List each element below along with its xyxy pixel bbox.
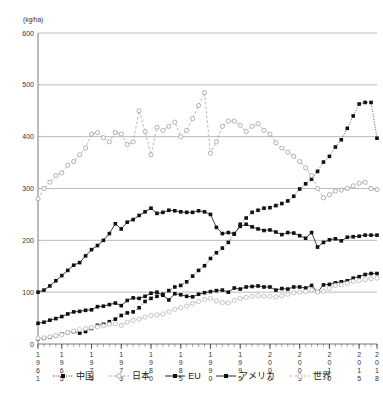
data-point bbox=[202, 297, 206, 301]
data-point bbox=[155, 290, 159, 294]
data-point bbox=[72, 263, 76, 267]
legend-item-1[interactable]: 日本 bbox=[108, 371, 150, 381]
data-point bbox=[48, 284, 52, 288]
data-point bbox=[125, 142, 129, 146]
data-point bbox=[363, 273, 367, 277]
data-point bbox=[173, 209, 177, 213]
data-point bbox=[42, 186, 46, 190]
x-tick-label-digit: 2 bbox=[327, 351, 331, 358]
data-point bbox=[131, 318, 135, 322]
data-point bbox=[274, 230, 278, 234]
data-point bbox=[286, 287, 290, 291]
chart-legend: 中国日本EUアメリカ世界 bbox=[0, 371, 383, 381]
data-point bbox=[66, 269, 70, 273]
legend-item-3[interactable]: アメリカ bbox=[215, 371, 275, 381]
data-point bbox=[114, 301, 118, 305]
data-point bbox=[185, 211, 189, 215]
data-point bbox=[113, 322, 117, 326]
data-point bbox=[108, 303, 112, 307]
data-point bbox=[244, 216, 248, 220]
data-point bbox=[66, 331, 70, 335]
data-point bbox=[83, 146, 87, 150]
data-point bbox=[203, 210, 207, 214]
data-point bbox=[143, 300, 147, 304]
data-point bbox=[96, 305, 100, 309]
data-point bbox=[351, 184, 355, 188]
data-point bbox=[262, 285, 266, 289]
data-point bbox=[90, 248, 94, 252]
y-tick-label: 500 bbox=[22, 81, 34, 88]
data-point bbox=[256, 227, 260, 231]
x-tick-label-digit: 0 bbox=[327, 359, 331, 366]
data-point bbox=[167, 298, 171, 302]
data-point bbox=[60, 315, 64, 319]
data-point bbox=[173, 307, 177, 311]
x-tick-label-digit: 1 bbox=[238, 351, 242, 358]
data-point bbox=[220, 124, 224, 128]
data-point bbox=[309, 288, 313, 292]
data-point bbox=[339, 188, 343, 192]
data-point bbox=[107, 322, 111, 326]
data-point bbox=[36, 336, 40, 340]
data-point bbox=[334, 237, 338, 241]
data-point bbox=[238, 296, 242, 300]
data-point bbox=[280, 202, 284, 206]
data-point bbox=[286, 292, 290, 296]
data-point bbox=[274, 295, 278, 299]
data-point bbox=[328, 283, 332, 287]
data-point bbox=[369, 277, 373, 281]
data-point bbox=[280, 287, 284, 291]
y-tick-label: 0 bbox=[30, 341, 34, 348]
data-point bbox=[131, 140, 135, 144]
data-point bbox=[345, 235, 349, 239]
data-point bbox=[232, 298, 236, 302]
data-point bbox=[119, 132, 123, 136]
data-point bbox=[89, 325, 93, 329]
data-point bbox=[322, 160, 326, 164]
data-point bbox=[84, 309, 88, 313]
x-tick-label-digit: 9 bbox=[36, 359, 40, 366]
data-point bbox=[149, 153, 153, 157]
legend-item-4[interactable]: 世界 bbox=[289, 371, 331, 381]
data-point bbox=[369, 101, 373, 105]
data-point bbox=[66, 163, 70, 167]
data-point bbox=[286, 150, 290, 154]
data-point bbox=[268, 206, 272, 210]
data-point bbox=[42, 288, 46, 292]
data-point bbox=[197, 269, 201, 273]
data-point bbox=[149, 297, 153, 301]
series-japan bbox=[36, 91, 379, 201]
data-point bbox=[292, 291, 296, 295]
x-tick-label-digit: 2 bbox=[375, 351, 379, 358]
legend-label: 日本 bbox=[132, 371, 150, 381]
data-point bbox=[221, 246, 225, 250]
data-point bbox=[363, 101, 367, 105]
legend-item-2[interactable]: EU bbox=[164, 371, 201, 381]
data-point bbox=[315, 186, 319, 190]
data-point bbox=[215, 251, 219, 255]
data-point bbox=[137, 317, 141, 321]
data-point bbox=[280, 294, 284, 298]
data-point bbox=[60, 333, 64, 337]
x-tick-label-digit: 9 bbox=[60, 359, 64, 366]
data-point bbox=[173, 120, 177, 124]
legend-item-0[interactable]: 中国 bbox=[52, 371, 94, 381]
data-point bbox=[143, 315, 147, 319]
data-point bbox=[327, 193, 331, 197]
data-point bbox=[268, 285, 272, 289]
data-point bbox=[102, 239, 106, 243]
y-tick-label: 100 bbox=[22, 289, 34, 296]
data-point bbox=[197, 292, 201, 296]
data-point bbox=[292, 285, 296, 289]
x-tick-label-digit: 1 bbox=[179, 351, 183, 358]
legend-marker-icon bbox=[164, 371, 186, 381]
legend-marker-icon bbox=[215, 371, 237, 381]
data-point bbox=[227, 241, 231, 245]
y-tick-label: 300 bbox=[22, 185, 34, 192]
data-point bbox=[250, 225, 254, 229]
data-point bbox=[72, 310, 76, 314]
data-point bbox=[280, 146, 284, 150]
data-point bbox=[345, 127, 349, 131]
data-point bbox=[191, 116, 195, 120]
data-point bbox=[238, 225, 242, 229]
